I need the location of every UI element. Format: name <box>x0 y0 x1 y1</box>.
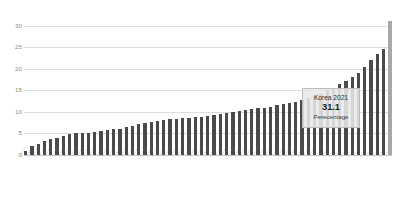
y-axis-tick-label: 10 <box>0 109 22 115</box>
x-axis-label: ———— <box>200 156 203 159</box>
callout-value: 31.1 <box>322 103 340 113</box>
bar <box>369 60 372 155</box>
x-axis-labels: ————————————————————————————————————————… <box>24 156 392 202</box>
bar <box>363 67 366 155</box>
bar-series <box>24 17 392 155</box>
y-axis-tick-label: 15 <box>0 87 22 93</box>
bar <box>388 21 391 155</box>
bar <box>376 54 379 155</box>
callout-unit: Perecentage <box>313 114 348 121</box>
bar-chart: 051015202530 ———————————————————————————… <box>0 0 396 203</box>
y-axis-tick-label: 30 <box>0 23 22 29</box>
y-axis-tick-label: 20 <box>0 66 22 72</box>
bar <box>382 49 385 155</box>
x-axis-label: ———— <box>156 156 159 159</box>
plot-area <box>24 17 392 155</box>
x-axis-label: ———— <box>388 156 391 159</box>
y-axis-tick-label: 25 <box>0 44 22 50</box>
y-axis-tick-label: 5 <box>0 130 22 136</box>
callout-title: Korea 2021 <box>314 95 348 102</box>
callout-box: Korea 2021 31.1 Perecentage <box>302 88 360 128</box>
